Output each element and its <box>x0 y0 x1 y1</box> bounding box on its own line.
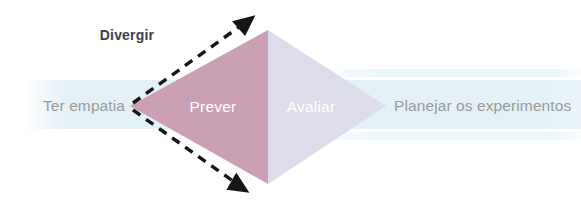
stage-label-ter-empatia: Ter empatia <box>43 97 125 114</box>
divergir-label: Divergir <box>100 27 155 43</box>
stage-label-prever: Prever <box>190 98 237 115</box>
divergence-diagram: Divergir Ter empatia Prever Avaliar Plan… <box>0 0 581 207</box>
diagram-canvas: Divergir Ter empatia Prever Avaliar Plan… <box>0 0 581 207</box>
stage-label-avaliar: Avaliar <box>287 98 336 115</box>
upper-accent-stripe <box>300 69 581 77</box>
stage-label-planejar-os-experimentos: Planejar os experimentos <box>394 97 571 114</box>
